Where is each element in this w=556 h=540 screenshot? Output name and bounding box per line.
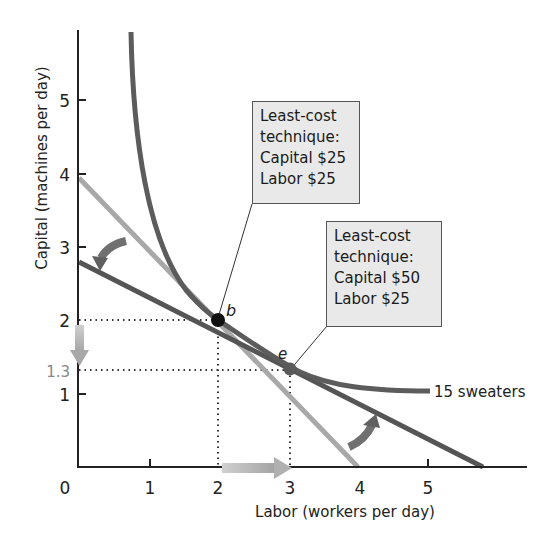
arrow-labor-increase [222,457,292,479]
x-axis-title: Labor (workers per day) [255,503,435,521]
isoquant-curve [131,32,430,391]
arrow-rotate-bottom-icon [349,414,380,447]
point-e-label: e [278,345,287,363]
point-b-label: b [226,301,236,320]
x-ticks [150,459,428,467]
callout-b-line-3: Capital $25 [260,148,352,169]
y-tick-1: 1 [59,385,70,405]
x-tick-5: 5 [423,478,434,498]
chart-canvas: 5 4 3 2 1.3 1 0 1 2 3 4 5 Labor (workers… [0,0,556,540]
x-tick-4: 4 [355,478,366,498]
y-tick-3: 3 [59,238,70,258]
y-tick-4: 4 [59,165,70,185]
callout-e-line-3: Capital $50 [334,268,434,289]
callout-e-line-1: Least-cost [334,226,434,247]
callout-b-line-1: Least-cost [260,106,352,127]
origin-label: 0 [60,478,71,498]
arrow-capital-decrease [70,325,89,366]
callout-e-leader [290,326,327,370]
x-tick-3: 3 [285,478,296,498]
point-e [284,363,297,376]
callout-b: Least-cost technique: Capital $25 Labor … [252,101,360,204]
callout-b-line-2: technique: [260,127,352,148]
y-tick-5: 5 [59,91,70,111]
x-tick-1: 1 [145,478,156,498]
callout-e-line-2: technique: [334,247,434,268]
y-axis-title: Capital (machines per day) [33,66,51,269]
arrow-rotate-top-icon [92,241,126,271]
y-tick-2: 2 [59,311,70,331]
callout-b-line-4: Labor $25 [260,169,352,190]
point-b [211,313,225,327]
guide-lines [79,320,290,467]
y-tick-1-3: 1.3 [46,363,70,381]
isoquant-label: 15 sweaters [434,383,526,401]
callout-e: Least-cost technique: Capital $50 Labor … [326,221,442,327]
x-tick-2: 2 [213,478,224,498]
callout-e-line-4: Labor $25 [334,289,434,310]
